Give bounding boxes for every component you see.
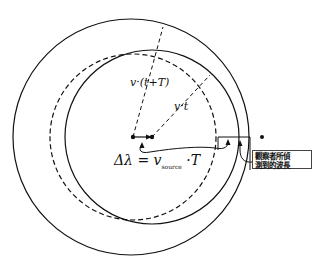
doppler-diagram: v·(t+T) v·t Δλ = vsource ·T 觀察者所偵 測到的波長 (0, 0, 322, 264)
observer-label-line2: 測到的波長 (255, 161, 309, 170)
diagram-canvas (0, 0, 322, 264)
observer-dot (260, 135, 264, 139)
formula-subscript: source (162, 163, 182, 170)
source-old-dot (131, 135, 135, 139)
label-radius-t: v·t (174, 100, 188, 113)
arrowhead-icon (140, 142, 145, 148)
observer-wavelength-label-box: 觀察者所偵 測到的波長 (252, 150, 312, 169)
observer-label-line1: 觀察者所偵 (255, 152, 309, 161)
formula-prefix: Δλ = v (114, 152, 162, 168)
source-new-dot (150, 135, 154, 139)
formula-suffix: ·T (182, 152, 200, 168)
label-radius-t-plus-T: v·(t+T) (130, 76, 169, 89)
formula-leader-curve (140, 141, 228, 153)
arrowhead-icon (226, 139, 231, 145)
delta-lambda-formula: Δλ = vsource ·T (114, 152, 200, 170)
